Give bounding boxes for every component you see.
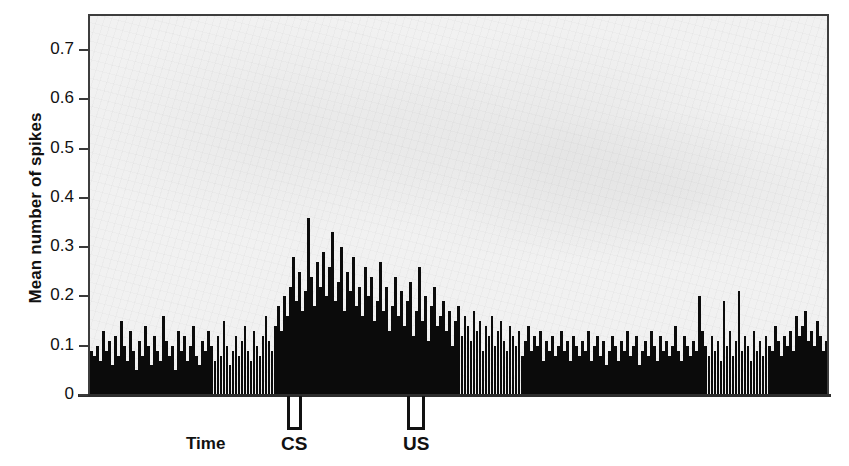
y-tick-label: 0.7 [22,39,74,59]
cs-marker-bracket [287,396,302,430]
y-tick-mark [79,394,88,396]
us-marker-label: US [385,433,447,455]
y-tick-label: 0.4 [22,187,74,207]
y-tick-mark [79,295,88,297]
histogram-bar [828,356,829,394]
figure-histogram: Mean number of spikes 0.70.60.50.40.30.2… [0,0,849,466]
histogram-bars [90,16,827,394]
y-tick-label: 0.6 [22,88,74,108]
y-tick-mark [79,345,88,347]
y-axis-tick-labels: 0.70.60.50.40.30.20.10 [14,0,74,466]
y-tick-mark [79,246,88,248]
y-tick-label: 0.1 [22,335,74,355]
y-tick-label: 0.2 [22,285,74,305]
y-tick-mark [79,197,88,199]
y-tick-mark [79,49,88,51]
y-tick-label: 0.5 [22,138,74,158]
x-axis-label: Time [186,434,225,454]
x-axis-line [78,394,831,397]
cs-marker-label: CS [265,433,324,455]
plot-area [88,14,829,396]
y-tick-label: 0.3 [22,236,74,256]
y-tick-mark [79,148,88,150]
us-marker-bracket [407,396,425,430]
y-tick-mark [79,98,88,100]
histogram-bar [825,341,828,394]
y-tick-label: 0 [22,384,74,404]
